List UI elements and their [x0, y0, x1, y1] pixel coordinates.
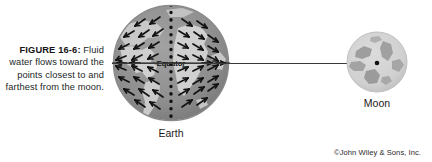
- equator-label: Equator: [157, 59, 186, 68]
- moon-label: Moon: [344, 97, 410, 109]
- figure-caption: FIGURE 16-6: Fluid water flows toward th…: [0, 44, 104, 94]
- earth-globe: Equator: [112, 4, 230, 122]
- figure-number-label: FIGURE 16-6:: [19, 45, 80, 55]
- moon-diagram: Moon: [346, 31, 410, 116]
- earth-diagram: Equator Earth: [112, 4, 228, 154]
- figure-container: FIGURE 16-6: Fluid water flows toward th…: [0, 0, 432, 162]
- copyright-credit: ©John Wiley & Sons, Inc.: [334, 148, 421, 157]
- moon-center-dot: [375, 61, 380, 66]
- moon-globe: [346, 31, 408, 93]
- earth-label: Earth: [112, 127, 230, 139]
